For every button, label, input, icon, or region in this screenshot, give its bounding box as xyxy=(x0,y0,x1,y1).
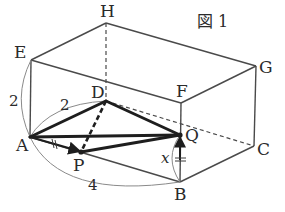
edge-GC xyxy=(254,66,256,146)
label-B: B xyxy=(174,184,187,204)
rectangular-prism-diagram: 図 1 H E G F D A Q C P B 2 2 4 x xyxy=(0,0,285,212)
label-D: D xyxy=(91,82,105,102)
label-E: E xyxy=(14,42,26,62)
point-P xyxy=(78,149,83,154)
edge-DQ-bold xyxy=(106,101,180,135)
label-Q: Q xyxy=(185,125,199,145)
figure-title: 図 1 xyxy=(197,12,228,31)
dimension-BQ: x xyxy=(161,149,170,167)
edge-FG xyxy=(181,66,256,103)
edge-HG xyxy=(106,23,256,66)
label-G: G xyxy=(259,57,273,77)
dimension-AD: 2 xyxy=(60,96,70,114)
edge-DP-dashed xyxy=(81,101,106,152)
label-P: P xyxy=(73,155,84,175)
edge-EH xyxy=(31,23,106,60)
label-A: A xyxy=(15,135,29,155)
dimension-AE: 2 xyxy=(9,92,19,110)
dimension-AB: 4 xyxy=(88,176,98,194)
point-Q xyxy=(177,132,182,137)
edge-AE xyxy=(30,60,31,137)
edge-BC xyxy=(180,146,254,182)
edge-AQ-bold xyxy=(30,135,180,137)
label-F: F xyxy=(176,81,188,101)
label-H: H xyxy=(100,1,115,21)
label-C: C xyxy=(257,139,270,159)
